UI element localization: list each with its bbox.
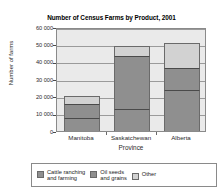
plot-area [56,28,206,132]
bar-segment [64,96,100,104]
legend-entry[interactable]: Cattle ranching and farming [37,169,85,181]
bar-segment [164,68,200,91]
legend-label: Other [142,171,156,177]
bar-segment [64,104,100,118]
bar-segment [64,118,100,131]
bar-saskatchewan[interactable] [114,46,150,131]
y-axis-tick-label: 30 000 [13,77,53,83]
legend-swatch-icon [90,171,97,178]
y-axis-tick-label: 40 000 [13,59,53,65]
x-axis-title: Province [56,144,206,151]
y-axis-tick-mark [53,132,56,133]
y-axis-tick-label: 20 000 [13,94,53,100]
gridline [57,29,205,30]
bar-segment [164,90,200,131]
legend-label: Cattle ranching and farming [47,169,85,181]
legend-swatch-icon [132,173,139,180]
legend-label: Oil seeds and grains [100,169,127,181]
y-axis-tick-label: 50 000 [13,42,53,48]
bar-segment [114,56,150,110]
census-farms-bar-chart: Number of Census Farms by Product, 2001 … [0,0,223,194]
bar-segment [164,43,200,67]
chart-legend: Cattle ranching and farmingOil seeds and… [31,163,217,187]
legend-entry[interactable]: Oil seeds and grains [90,169,127,181]
bar-segment [114,109,150,131]
bar-alberta[interactable] [164,43,200,131]
y-axis-tick-label: 10 000 [13,111,53,117]
legend-swatch-icon [37,171,44,178]
chart-title: Number of Census Farms by Product, 2001 [0,14,223,22]
y-axis-tick-label: 60 000 [13,25,53,31]
bar-manitoba[interactable] [64,96,100,131]
bar-segment [114,46,150,56]
x-axis-tick-label: Alberta [141,134,221,141]
legend-entry[interactable]: Other [132,171,156,180]
